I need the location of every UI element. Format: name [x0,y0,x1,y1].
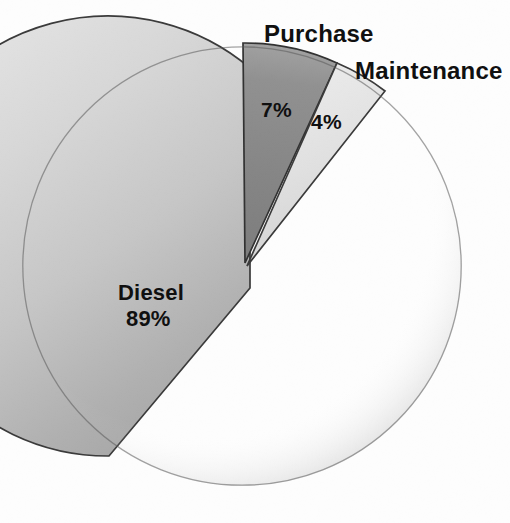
slice-label-diesel: Diesel [118,280,184,306]
slice-label-maintenance: Maintenance [355,57,503,85]
slice-label-purchase: Purchase [264,20,374,48]
slice-value-diesel: 89% [126,306,171,332]
pie-slice-diesel [0,16,250,456]
pie-chart-figure: Purchase Maintenance 7% 4% Diesel 89% [0,0,510,523]
slice-value-maintenance: 4% [311,110,342,134]
slice-value-purchase: 7% [261,98,292,122]
